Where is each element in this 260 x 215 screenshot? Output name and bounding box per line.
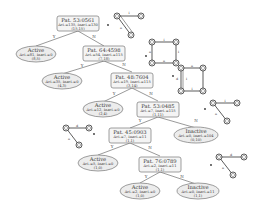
branch-label-yes: Y: [112, 91, 116, 96]
pattern-graph-2: i a i a: [145, 38, 179, 67]
svg-text:a: a: [222, 166, 224, 170]
split-node-6: Pat. 53:0485 Act.=7, Inact.=115 (1,11): [137, 102, 179, 117]
decision-tree-diagram: Y N Y N Y N Y N Y N Y N Pat. 53:0561 Act…: [0, 0, 260, 215]
split-node-2: Pat. 64:4598 Act.=54, Inact.=115 (7,18): [83, 46, 125, 61]
node-pair: (1,1): [126, 139, 135, 143]
bullet-icon: [145, 55, 147, 57]
leaf-node-active-3: Active Act.=35, Inact.=0 (4,3): [42, 73, 82, 89]
split-node-4: Pat. 48:7604 Act.=19, Inact.=115 (3,14): [111, 73, 153, 88]
branch-label-yes: Y: [80, 63, 84, 68]
pattern-graph-5: d a: [63, 124, 95, 149]
node-title: Pat. 48:7604: [115, 74, 149, 80]
branch-label-yes: Y: [52, 34, 56, 39]
split-node-10: Pat. 76:0789 Act.=2, Inact.=11 (1,1): [139, 157, 181, 172]
node-pair: (3,14): [127, 84, 138, 88]
pattern-graph-6: d a: [210, 153, 247, 179]
leaf-node-active-9: Active Act.=5, Inact.=0 (1,0): [78, 155, 118, 171]
node-pair: (1,11): [153, 113, 164, 117]
pattern-graph-4: i a: [204, 99, 240, 125]
svg-text:a: a: [163, 59, 165, 63]
leaf-node-active-5: Active Act.=12, Inact.=0 (2,4): [83, 101, 123, 117]
branch-label-no: N: [122, 62, 126, 67]
svg-text:a: a: [120, 26, 122, 30]
svg-text:d: d: [230, 153, 233, 157]
bullet-icon: [107, 24, 109, 26]
leaf-node-active-11: Active Act.=2, Inact.=0 (1,0): [120, 183, 160, 199]
node-pair: (8,5): [32, 57, 41, 61]
branch-label-yes: Y: [144, 174, 148, 179]
svg-text:i: i: [128, 11, 129, 15]
node-pair: (7,18): [99, 57, 110, 61]
svg-text:a: a: [68, 137, 70, 141]
svg-text:a: a: [215, 112, 217, 116]
pattern-graph-1: i a: [107, 11, 144, 38]
svg-text:d: d: [76, 124, 79, 128]
svg-text:i: i: [186, 77, 187, 81]
bullet-icon: [172, 75, 174, 77]
node-pair: (1,0): [94, 166, 103, 170]
bullet-icon: [93, 133, 95, 135]
leaf-node-inactive-12: Inactive Act.=0, Inact.=11 (1,1): [177, 183, 219, 199]
pattern-graph-3: a i d i: [172, 64, 206, 95]
node-pair: (4,3): [58, 84, 67, 88]
branch-label-yes: Y: [110, 144, 114, 149]
bullet-icon: [204, 108, 206, 110]
svg-text:i: i: [163, 38, 164, 42]
node-title: Pat. 64:4598: [87, 47, 120, 53]
node-title: Pat. 45:0903: [113, 129, 146, 135]
node-pair: (15,15): [71, 27, 85, 31]
branch-label-no: N: [92, 34, 96, 39]
node-pair: (1,0): [136, 194, 145, 198]
node-pair: (1,1): [156, 168, 165, 172]
bullet-icon: [210, 164, 212, 166]
branch-label-no: N: [148, 145, 152, 150]
branch-label-no: N: [180, 174, 184, 179]
leaf-node-inactive-8: Inactive Act.=0, Inact.=104 (0,10): [174, 127, 218, 143]
node-title: Pat. 76:0789: [143, 158, 176, 164]
node-pair: (0,10): [191, 138, 202, 142]
node-pair: (2,4): [99, 112, 108, 116]
svg-text:i: i: [191, 87, 192, 91]
node-title: Pat. 53:0485: [141, 103, 174, 109]
node-pair: (1,1): [194, 194, 203, 198]
svg-text:a: a: [149, 50, 151, 54]
leaf-node-active-1: Active Act.=81, Inact.=0 (8,5): [16, 46, 56, 62]
branch-label-yes: Y: [138, 118, 142, 123]
svg-text:d: d: [176, 77, 179, 81]
svg-text:i: i: [178, 50, 179, 54]
split-node-root: Pat. 53:0561 Act.=135, Inact.=130 (15,15…: [57, 16, 99, 31]
split-node-7: Pat. 45:0903 Act.=7, Inact.=11 (1,1): [109, 128, 151, 143]
svg-text:a: a: [191, 64, 193, 68]
node-title: Pat. 53:0561: [61, 17, 94, 23]
branch-label-no: N: [149, 91, 153, 96]
svg-text:i: i: [224, 99, 225, 103]
branch-label-no: N: [194, 118, 198, 123]
